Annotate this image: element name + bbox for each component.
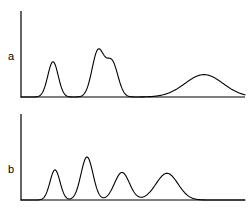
axis-lines <box>21 114 245 200</box>
panel-a: a <box>0 0 248 108</box>
spectrum-trace <box>21 157 245 200</box>
panel-b: b <box>0 108 248 216</box>
spectra-figure: a b <box>0 0 248 216</box>
spectrum-trace <box>21 49 245 97</box>
panel-b-plot <box>0 108 248 216</box>
axis-lines <box>21 11 245 97</box>
panel-a-plot <box>0 0 248 108</box>
